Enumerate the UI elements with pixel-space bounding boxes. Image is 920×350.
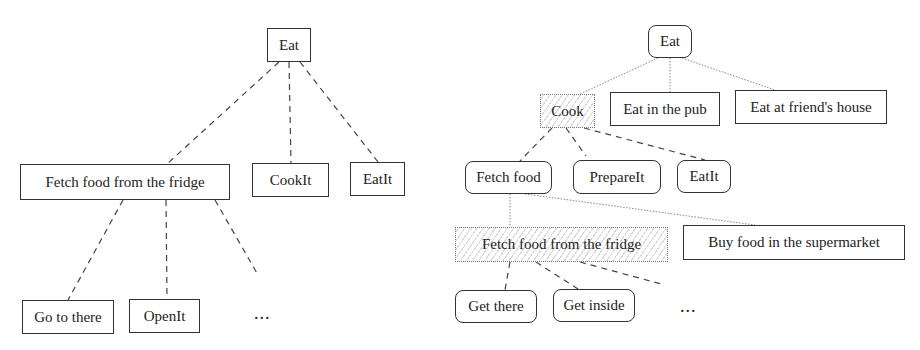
edge-fetch-fridge-ellipsis (215, 200, 258, 275)
right-node-eat: Eat (648, 25, 692, 58)
edge-fetch-fridge-openit (166, 200, 167, 299)
right-node-eat-in-the-pub: Eat in the pub (610, 92, 720, 126)
right-node-eatit: EatIt (677, 160, 731, 193)
edge-cook-fetch-food (520, 128, 552, 161)
left-node-cookit: CookIt (252, 163, 329, 197)
left-node-openit: OpenIt (129, 299, 200, 333)
right-node-get-there: Get there (455, 290, 537, 323)
right-node-prepareit: PrepareIt (573, 160, 661, 194)
left-node-eatit: EatIt (350, 162, 405, 196)
node-label: Buy food in the supermarket (708, 234, 880, 251)
right-node-fetch-food: Fetch food (465, 161, 552, 194)
node-label: Go to there (34, 309, 101, 326)
edge-eat-eat-friend (682, 58, 775, 90)
node-label: Cook (551, 103, 584, 120)
node-label: OpenIt (144, 308, 186, 325)
node-label: Fetch food from the fridge (45, 174, 204, 191)
node-label: EatIt (689, 168, 718, 185)
node-label: Eat in the pub (623, 101, 707, 118)
node-label: Fetch food from the fridge (482, 236, 641, 253)
node-label: Eat (279, 37, 299, 54)
edge-cook-prepareit (566, 128, 586, 156)
left-ellipsis: ... (254, 303, 271, 324)
node-label: Fetch food (476, 169, 541, 186)
node-label: Eat at friend's house (750, 99, 871, 116)
right-node-cook: Cook (540, 94, 595, 128)
edge-eat-cookit (289, 62, 291, 163)
edge-fridge-get-there (505, 262, 510, 290)
right-node-eat-at-friends-house: Eat at friend's house (735, 90, 887, 124)
edge-fridge-get-inside (536, 262, 578, 289)
left-node-fetch-food-from-the-fridge: Fetch food from the fridge (20, 164, 230, 200)
right-node-get-inside: Get inside (553, 289, 635, 322)
edge-fridge-ellipsis (580, 262, 665, 285)
edge-eat-fetch-fridge (167, 62, 279, 164)
edge-fetch-fridge-go-there (68, 200, 123, 300)
right-ellipsis: ... (680, 296, 697, 317)
edge-eat-cook (580, 58, 658, 94)
edge-eat-eatit (300, 62, 378, 162)
node-label: EatIt (363, 171, 392, 188)
edge-fetch-food-supermarket (525, 194, 755, 225)
node-label: CookIt (270, 172, 312, 189)
node-label: Get there (468, 298, 523, 315)
left-node-eat: Eat (267, 28, 311, 62)
node-label: Get inside (563, 297, 624, 314)
node-label: Eat (660, 33, 680, 50)
edge-cook-eatit (584, 128, 705, 160)
right-node-fetch-food-from-the-fridge: Fetch food from the fridge (455, 227, 668, 262)
left-node-go-to-there: Go to there (22, 300, 114, 334)
node-label: PrepareIt (590, 169, 645, 186)
right-node-buy-food-in-the-supermarket: Buy food in the supermarket (683, 225, 905, 260)
